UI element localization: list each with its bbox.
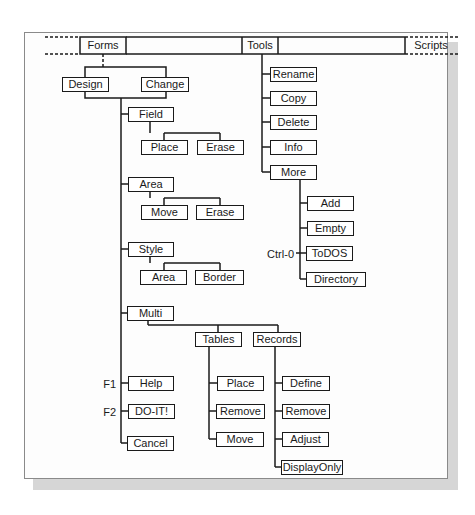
- menubar-tools[interactable]: Tools: [242, 37, 278, 54]
- node-records[interactable]: Records: [253, 332, 301, 347]
- node-field-erase[interactable]: Erase: [197, 140, 244, 155]
- menubar-scripts[interactable]: Scripts: [405, 37, 457, 54]
- node-records-remove[interactable]: Remove: [282, 404, 330, 419]
- node-more-todos[interactable]: ToDOS: [306, 246, 353, 261]
- node-more[interactable]: More: [270, 165, 317, 180]
- node-tables-place[interactable]: Place: [217, 376, 264, 391]
- shortcut-f1: F1: [96, 378, 116, 390]
- node-area-move[interactable]: Move: [141, 205, 188, 220]
- node-multi[interactable]: Multi: [127, 306, 174, 321]
- node-change[interactable]: Change: [141, 77, 189, 92]
- menubar-forms[interactable]: Forms: [80, 37, 126, 54]
- node-copy[interactable]: Copy: [270, 91, 317, 106]
- node-tables-move[interactable]: Move: [216, 432, 264, 447]
- node-tables[interactable]: Tables: [195, 332, 242, 347]
- node-do-it[interactable]: DO-IT!: [128, 404, 175, 419]
- node-records-define[interactable]: Define: [282, 376, 330, 391]
- node-records-adjust[interactable]: Adjust: [282, 432, 329, 447]
- node-area[interactable]: Area: [128, 177, 174, 192]
- node-area-erase[interactable]: Erase: [196, 205, 244, 220]
- node-more-add[interactable]: Add: [307, 196, 354, 211]
- node-cancel[interactable]: Cancel: [127, 436, 174, 451]
- node-info[interactable]: Info: [270, 140, 317, 155]
- node-records-displayonly[interactable]: DisplayOnly: [281, 460, 343, 475]
- node-delete[interactable]: Delete: [270, 115, 317, 130]
- node-design[interactable]: Design: [62, 77, 109, 92]
- node-rename[interactable]: Rename: [270, 67, 317, 82]
- node-style[interactable]: Style: [128, 242, 174, 257]
- node-help[interactable]: Help: [128, 376, 174, 391]
- node-more-directory[interactable]: Directory: [306, 272, 366, 287]
- node-more-empty[interactable]: Empty: [307, 221, 354, 236]
- shortcut-f2: F2: [96, 406, 116, 418]
- node-style-border[interactable]: Border: [195, 270, 244, 285]
- node-field-place[interactable]: Place: [141, 140, 188, 155]
- node-field[interactable]: Field: [128, 107, 174, 122]
- shortcut-ctrl-0: Ctrl-0: [254, 248, 294, 260]
- node-style-area[interactable]: Area: [140, 270, 187, 285]
- node-tables-remove[interactable]: Remove: [216, 404, 265, 419]
